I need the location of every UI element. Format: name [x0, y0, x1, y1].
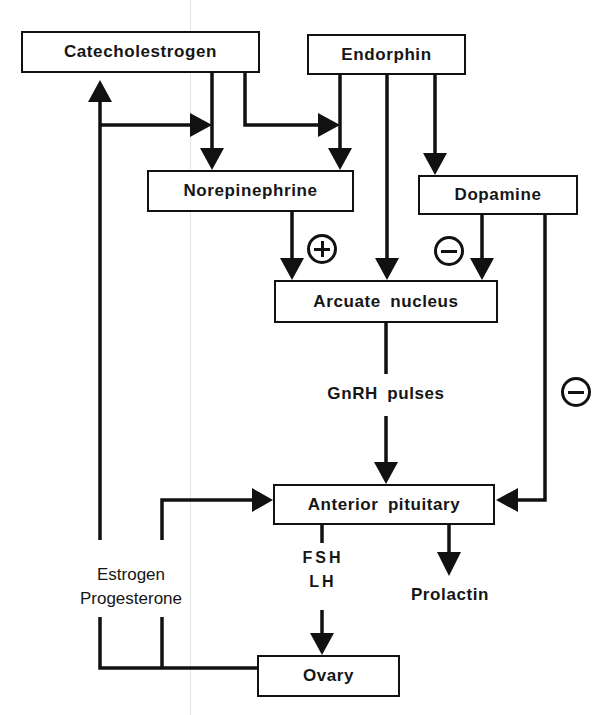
arrowhead-icon: [437, 552, 461, 576]
arrowhead-icon: [252, 488, 273, 512]
node-dopamine: Dopamine: [418, 175, 578, 215]
label-fsh-lh: FSH LH: [292, 546, 354, 594]
arrowhead-icon: [328, 148, 352, 170]
minus-sign-icon: [561, 377, 591, 407]
node-endorphin: Endorphin: [307, 34, 466, 75]
arrowhead-icon: [496, 488, 518, 512]
label-estrogen: Estrogen: [68, 563, 194, 587]
arrowhead-icon: [318, 113, 340, 137]
label-prolactin: Prolactin: [394, 585, 506, 605]
edge-catecholestrogen-branch: [245, 72, 318, 125]
arrowhead-icon: [374, 462, 398, 484]
arrowhead-icon: [470, 258, 494, 280]
node-catecholestrogen: Catecholestrogen: [21, 31, 260, 73]
arrowhead-icon: [190, 113, 212, 137]
edge-dopamine-pituitary: [518, 214, 545, 500]
node-arcuate-nucleus: Arcuate nucleus: [274, 280, 498, 323]
arrowhead-icon: [310, 633, 334, 655]
edge-ovary-pituitary-upper: [162, 500, 252, 540]
edge-ovary-feedback-lower: [100, 617, 257, 668]
label-fsh: FSH: [292, 546, 354, 570]
label-gnrh-pulses: GnRH pulses: [296, 384, 476, 404]
arrowhead-icon: [88, 80, 112, 102]
plus-sign-icon: [307, 234, 337, 264]
label-lh: LH: [292, 570, 354, 594]
node-norepinephrine: Norepinephrine: [147, 170, 354, 212]
node-anterior-pituitary: Anterior pituitary: [273, 484, 495, 525]
arrowhead-icon: [200, 148, 224, 170]
minus-sign-icon: [434, 236, 464, 266]
arrowhead-icon: [423, 153, 447, 175]
arrowhead-icon: [375, 258, 399, 280]
node-ovary: Ovary: [257, 655, 400, 697]
label-progesterone: Progesterone: [68, 587, 194, 611]
arrowhead-icon: [280, 258, 304, 280]
label-estrogen-progesterone: Estrogen Progesterone: [68, 563, 194, 611]
hormone-regulation-diagram: Catecholestrogen Endorphin Norepinephrin…: [0, 0, 608, 715]
